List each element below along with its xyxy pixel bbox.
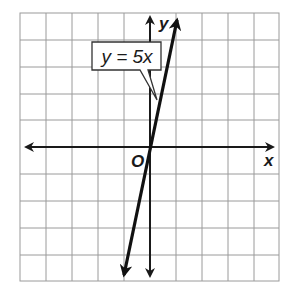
y-axis-label: y bbox=[158, 14, 170, 33]
origin-label: O bbox=[131, 152, 144, 171]
coordinate-plane: y = 5x y x O bbox=[0, 0, 291, 282]
equation-label: y = 5x bbox=[99, 46, 154, 67]
x-axis-label: x bbox=[263, 151, 275, 170]
